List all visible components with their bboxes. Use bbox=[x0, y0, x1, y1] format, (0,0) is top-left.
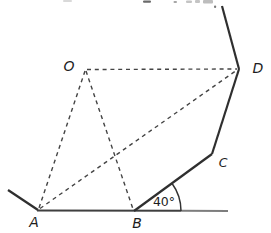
top-ray bbox=[222, 6, 239, 69]
dashed-OB bbox=[86, 71, 133, 209]
dashed-OD bbox=[87, 69, 237, 70]
point-label-C: C bbox=[219, 157, 228, 170]
cropped-text-remnant bbox=[195, 0, 200, 3]
cropped-text-remnant bbox=[186, 1, 192, 4]
point-label-D: D bbox=[253, 61, 264, 75]
cropped-text-remnant bbox=[203, 0, 213, 4]
cropped-text-remnant bbox=[174, 1, 178, 3]
dashed-OA bbox=[39, 71, 85, 208]
segment-CD bbox=[212, 69, 239, 154]
cropped-text-remnant bbox=[214, 6, 216, 9]
point-label-A: A bbox=[29, 215, 39, 229]
point-label-O: O bbox=[63, 59, 74, 73]
cropped-text-remnant bbox=[143, 1, 151, 3]
angle-label: 40° bbox=[153, 196, 175, 209]
left-ray bbox=[8, 190, 38, 210]
dashed-AD bbox=[40, 70, 237, 209]
diagram-lines bbox=[0, 0, 271, 233]
point-label-B: B bbox=[132, 216, 142, 230]
cropped-text-remnant bbox=[63, 0, 72, 2]
geometry-diagram: O A B C D 40° bbox=[0, 0, 271, 233]
